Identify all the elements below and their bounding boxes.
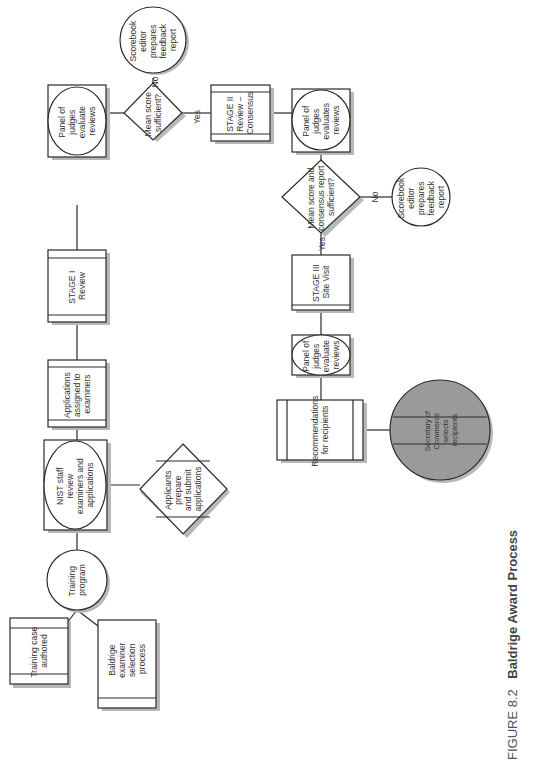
label-line: report bbox=[436, 185, 446, 208]
label-line: judges bbox=[311, 344, 321, 370]
label-line: selection bbox=[127, 643, 137, 677]
svg-text:Applications assigned to: Applications assigned to examiners bbox=[62, 370, 92, 418]
label-line: editor bbox=[138, 30, 148, 51]
node-recommendations: Recommendations for recipients bbox=[277, 393, 367, 466]
label-line: Review bbox=[77, 271, 87, 300]
yes-label: Yes bbox=[192, 110, 202, 124]
label-line: recipients bbox=[450, 414, 459, 446]
label-line: applications bbox=[85, 463, 95, 508]
label-line: reviews bbox=[331, 341, 341, 370]
node-scorebook2: Scorebook editor prepares feedback repor… bbox=[392, 168, 450, 226]
no-label: No bbox=[370, 191, 380, 202]
label-line: judges bbox=[311, 109, 321, 135]
label-line: Scorebook bbox=[396, 177, 406, 218]
label-line: Commerce bbox=[432, 413, 441, 450]
label-line: applications bbox=[193, 467, 203, 512]
label-line: sufficient? bbox=[326, 178, 336, 216]
node-nist-staff: NIST staff review examiners and applicat… bbox=[44, 440, 111, 533]
node-panel1: Panel of judges evaluate reviews bbox=[48, 85, 110, 160]
label-line: Secretary of bbox=[423, 410, 432, 451]
label-line: STAGE I bbox=[67, 271, 77, 304]
node-stage1: STAGE I Review bbox=[48, 250, 110, 325]
label-line: examiner bbox=[117, 643, 127, 678]
label-line: Panel of bbox=[301, 340, 311, 372]
flowchart: Training case authored Baldrige examiner… bbox=[0, 0, 536, 771]
label-line: evaluate bbox=[321, 340, 331, 372]
label-line: selects bbox=[441, 419, 450, 443]
label-line: prepares bbox=[416, 181, 426, 215]
label-line: reviews bbox=[87, 107, 97, 136]
label-line: examiners bbox=[82, 374, 92, 413]
node-decision1: Mean score sufficient? No Yes bbox=[124, 76, 202, 142]
label-line: Mean score bbox=[143, 92, 153, 137]
node-panel3: Panel of judges evaluate reviews bbox=[292, 335, 354, 378]
svg-text:Panel of judges ev: Panel of judges evaluates reviews bbox=[301, 101, 341, 140]
label-line: Applicants bbox=[163, 471, 173, 510]
node-training-program: Training program bbox=[47, 550, 110, 613]
node-stage2: STAGE II Review – Consensus bbox=[211, 85, 274, 144]
node-stage3: STAGE III Site Visit bbox=[292, 255, 354, 313]
label-line: sufficient? bbox=[153, 94, 163, 132]
label-line: feedback bbox=[158, 23, 168, 58]
label-line: review bbox=[65, 473, 75, 498]
label-line: Baldrige bbox=[107, 644, 117, 675]
label-line: Review – bbox=[235, 96, 245, 131]
label-line: Panel of bbox=[301, 105, 311, 137]
svg-text:Panel of judges ev: Panel of judges evaluate reviews bbox=[57, 104, 97, 139]
label-line: Panel of bbox=[57, 106, 67, 138]
svg-text:Baldrige examiner: Baldrige examiner selection process bbox=[107, 640, 147, 677]
label-line: authored bbox=[39, 634, 49, 668]
label-line: STAGE II bbox=[225, 97, 235, 132]
no-label: No bbox=[150, 76, 160, 87]
label-line: Applications bbox=[62, 372, 72, 418]
node-applications-assigned: Applications assigned to examiners bbox=[48, 360, 110, 430]
label-line: STAGE III bbox=[311, 264, 321, 302]
label-line: for recipients bbox=[320, 406, 330, 455]
label-line: process bbox=[137, 644, 147, 674]
label-line: evaluate bbox=[77, 106, 87, 138]
label-line: assigned to bbox=[72, 373, 82, 417]
label-line: feedback bbox=[426, 180, 436, 215]
label-line: and submit bbox=[183, 469, 193, 511]
yes-label: Yes bbox=[317, 237, 327, 251]
node-applicants: Applicants prepare and submit applicatio… bbox=[140, 444, 230, 538]
label-line: Mean score and bbox=[306, 167, 316, 228]
caption-number: FIGURE 8.2 bbox=[505, 689, 520, 760]
node-decision2: Mean score and consensus report sufficie… bbox=[282, 160, 380, 251]
svg-text:Mean score sufficient?: Mean score sufficient? bbox=[143, 90, 163, 137]
figure-caption: FIGURE 8.2 Baldrige Award Process bbox=[503, 530, 520, 760]
label-line: Recommendations bbox=[310, 396, 320, 467]
label-line: report bbox=[168, 28, 178, 51]
label-line: NIST staff bbox=[55, 467, 65, 505]
label-line: Site Visit bbox=[321, 265, 331, 299]
caption-title: Baldrige Award Process bbox=[505, 530, 520, 679]
label-line: consensus report bbox=[316, 165, 326, 231]
label-line: reviews bbox=[331, 106, 341, 135]
node-scorebook1: Scorebook editor prepares feedback repor… bbox=[120, 7, 189, 75]
node-examiner-selection: Baldrige examiner selection process bbox=[98, 620, 160, 711]
svg-text:Applicants prepare: Applicants prepare and submit applicatio… bbox=[163, 467, 203, 512]
svg-text:STAGE II Review –: STAGE II Review – Consensus bbox=[225, 92, 255, 135]
label-line: editor bbox=[406, 187, 416, 208]
svg-text:Panel of judges ev: Panel of judges evaluate reviews bbox=[301, 338, 341, 373]
svg-text:STAGE I Review: STAGE I Review bbox=[67, 268, 87, 303]
node-panel2: Panel of judges evaluates reviews bbox=[292, 89, 354, 155]
node-secretary: Secretary of Commerce selects recipients bbox=[390, 380, 493, 483]
label-line: Training case bbox=[29, 627, 39, 678]
label-line: prepare bbox=[173, 475, 183, 505]
label-line: examiners and bbox=[75, 458, 85, 514]
label-line: judges bbox=[67, 110, 77, 136]
label-line: Scorebook bbox=[128, 20, 138, 61]
label-line: prepares bbox=[148, 24, 158, 58]
label-line: program bbox=[77, 564, 87, 596]
svg-text:Training program: Training program bbox=[67, 564, 87, 597]
node-training-case: Training case authored bbox=[10, 618, 71, 688]
svg-text:FIGURE 8.2 Baldrige Awar: FIGURE 8.2 Baldrige Award Process bbox=[503, 530, 520, 760]
label-line: Training bbox=[67, 566, 77, 597]
label-line: evaluates bbox=[321, 103, 331, 139]
svg-text:STAGE III Site Visit: STAGE III Site Visit bbox=[311, 262, 331, 302]
label-line: Consensus bbox=[245, 92, 255, 135]
